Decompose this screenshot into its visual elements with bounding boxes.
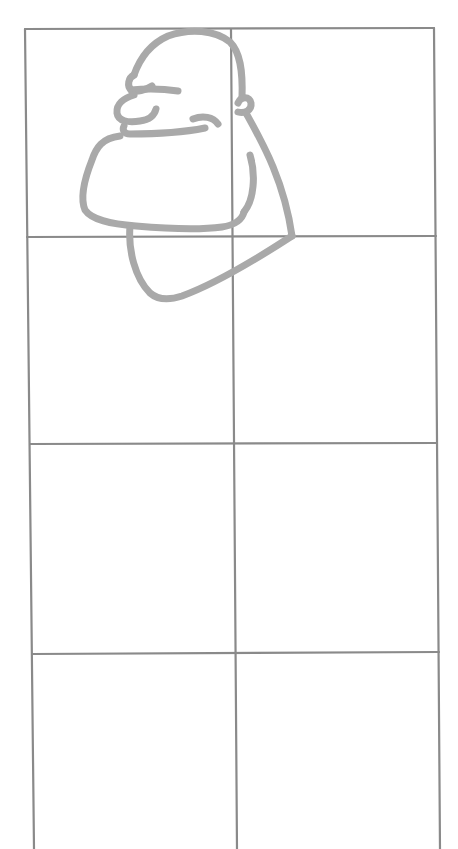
upper-lip-line — [123, 126, 205, 134]
grid-left-edge — [25, 29, 34, 849]
brow-line — [131, 89, 178, 91]
nose-outline — [117, 95, 156, 122]
smile-line — [193, 117, 218, 124]
drawing-canvas — [0, 0, 458, 849]
jaw-outline — [83, 136, 244, 229]
grid-right-edge — [434, 28, 440, 849]
grid-row-line-1 — [27, 236, 436, 237]
drawing-grid — [25, 28, 440, 849]
head-sketch — [83, 31, 292, 299]
grid-row-line-3 — [32, 652, 439, 654]
grid-top-edge — [25, 28, 434, 29]
grid-middle-line — [231, 29, 237, 849]
cheek-crease — [244, 155, 253, 212]
grid-row-line-2 — [30, 443, 437, 444]
